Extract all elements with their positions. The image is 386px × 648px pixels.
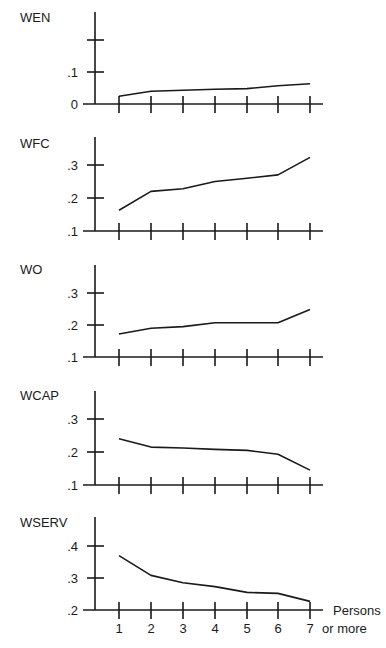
y-tick-label: .3 xyxy=(67,412,78,427)
series-line xyxy=(119,556,310,602)
panel-title: WO xyxy=(20,262,42,277)
x-tick-label: 3 xyxy=(179,621,186,636)
panel-wen: WEN0.1 xyxy=(20,10,323,113)
y-tick-label: .3 xyxy=(67,158,78,173)
x-tick-label: 1 xyxy=(115,621,122,636)
x-tick-label: 2 xyxy=(147,621,154,636)
panel-title: WEN xyxy=(20,10,50,25)
stacked-line-chart: WEN0.1WFC.1.2.3WO.1.2.3WCAP.1.2.3WSERV.2… xyxy=(0,0,386,648)
x-axis-label: Persons xyxy=(333,603,381,618)
panel-wcap: WCAP.1.2.3 xyxy=(20,388,323,494)
y-tick-label: .1 xyxy=(67,65,78,80)
panel-title: WFC xyxy=(20,136,50,151)
x-last-suffix: or more xyxy=(322,621,367,636)
panel-wo: WO.1.2.3 xyxy=(20,262,323,366)
y-tick-label: .2 xyxy=(67,191,78,206)
series-line xyxy=(119,157,310,210)
panel-wfc: WFC.1.2.3 xyxy=(20,136,323,240)
y-tick-label: .1 xyxy=(67,478,78,493)
y-tick-label: 0 xyxy=(71,97,78,112)
y-tick-label: .3 xyxy=(67,286,78,301)
series-line xyxy=(119,310,310,334)
x-tick-label: 6 xyxy=(274,621,281,636)
y-tick-label: .1 xyxy=(67,224,78,239)
series-line xyxy=(119,439,310,470)
panel-title: WCAP xyxy=(20,388,59,403)
y-tick-label: .3 xyxy=(67,571,78,586)
y-tick-label: .2 xyxy=(67,445,78,460)
y-tick-label: .1 xyxy=(67,350,78,365)
y-tick-label: .2 xyxy=(67,603,78,618)
y-tick-label: .2 xyxy=(67,318,78,333)
x-tick-label: 4 xyxy=(211,621,218,636)
x-tick-label: 7 xyxy=(306,621,313,636)
series-line xyxy=(119,84,310,97)
panel-title: WSERV xyxy=(20,515,68,530)
panel-wserv: WSERV.2.3.4 xyxy=(20,515,323,619)
y-tick-label: .4 xyxy=(67,539,78,554)
x-tick-label: 5 xyxy=(243,621,250,636)
